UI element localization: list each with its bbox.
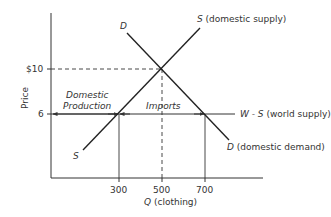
supply-bottom-label: S — [73, 151, 79, 161]
world-supply-label: W - S (world supply) — [240, 109, 331, 119]
tick-label-500: 500 — [153, 185, 170, 195]
tick-label-700: 700 — [196, 185, 213, 195]
domestic-production-label-line2: Production — [63, 101, 112, 111]
price-axis-label: Price — [20, 87, 30, 109]
domestic-production-label-line1: Domestic — [66, 90, 108, 100]
tick-label-10: $10 — [26, 64, 43, 74]
imports-label: Imports — [146, 101, 181, 111]
tick-label-6: 6 — [38, 109, 44, 119]
supply-demand-diagram: Price $10 6 300 500 700 Q (clothing) D S… — [0, 0, 331, 217]
supply-top-label: S (domestic supply) — [197, 14, 286, 24]
demand-curve — [127, 33, 229, 140]
supply-curve — [83, 28, 200, 150]
demand-top-label: D — [120, 21, 127, 31]
demand-bottom-label: D (domestic demand) — [227, 142, 325, 152]
x-axis-label: Q (clothing) — [144, 197, 197, 207]
tick-label-300: 300 — [110, 185, 127, 195]
